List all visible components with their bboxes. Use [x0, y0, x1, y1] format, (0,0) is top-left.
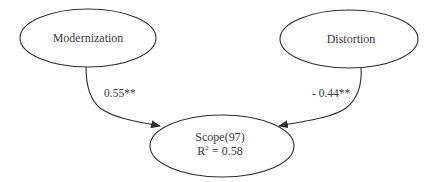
node-distortion: Distortion: [280, 10, 418, 68]
path-diagram: Modernization Distortion Scope(97) R2 = …: [0, 0, 438, 182]
r2-value: = 0.58: [209, 144, 243, 158]
node-distortion-label: Distortion: [327, 32, 376, 46]
edge-modernization-scope: 0.55**: [86, 67, 160, 126]
node-scope-label: Scope(97): [195, 130, 244, 144]
node-modernization-label: Modernization: [53, 31, 124, 45]
edge-distortion-scope-label: - 0.44**: [312, 87, 351, 99]
node-scope-r-squared: R2 = 0.58: [197, 144, 242, 158]
edge-distortion-scope: - 0.44**: [279, 67, 361, 126]
node-modernization: Modernization: [20, 9, 156, 67]
r2-prefix: R: [197, 144, 205, 158]
node-scope: Scope(97) R2 = 0.58: [150, 115, 294, 177]
edge-modernization-scope-label: 0.55**: [104, 87, 136, 99]
